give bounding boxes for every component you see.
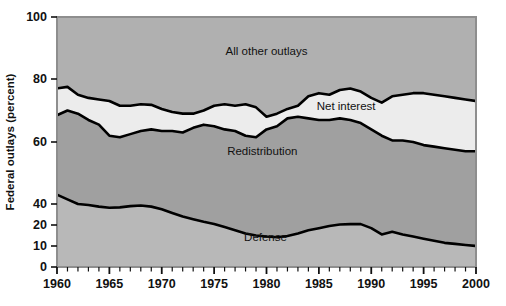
x-axis-tick-label: 1960 [43, 277, 71, 291]
x-axis-tick-label: 1995 [410, 277, 438, 291]
federal-outlays-chart-svg: All other outlays Net interest Redistrib… [0, 0, 506, 306]
x-axis-tick-label: 1975 [200, 277, 228, 291]
x-axis-tick-label: 1980 [253, 277, 281, 291]
y-axis-tick-label: 10 [33, 239, 47, 253]
y-axis-tick-label: 60 [33, 135, 47, 149]
y-axis-tick-label: 40 [33, 197, 47, 211]
y-axis-tick-label: 0 [40, 260, 47, 274]
x-axis-tick-label: 1970 [148, 277, 176, 291]
x-axis-tick-label: 1990 [357, 277, 385, 291]
band-label-defense: Defense [244, 231, 287, 243]
y-axis-tick-label: 20 [33, 218, 47, 232]
y-axis-tick-label: 100 [26, 10, 47, 24]
y-axis-tick-label: 80 [33, 72, 47, 86]
x-axis-tick-label: 1985 [305, 277, 333, 291]
band-label-net-interest: Net interest [317, 100, 377, 112]
y-axis-title: Federal outlays (percent) [4, 73, 16, 210]
x-axis-tick-label: 1965 [95, 277, 123, 291]
x-axis-tick-label: 2000 [462, 277, 490, 291]
x-axis: 196019651970197519801985199019952000 [43, 267, 490, 291]
chart-figure: All other outlays Net interest Redistrib… [0, 0, 506, 306]
band-label-all-other-outlays: All other outlays [226, 45, 308, 57]
band-label-redistribution: Redistribution [227, 145, 297, 157]
